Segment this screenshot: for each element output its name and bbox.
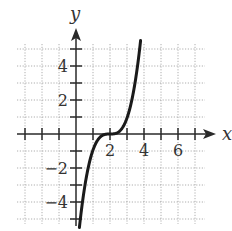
x-tick-label: 4 — [139, 141, 149, 160]
y-tick-label: 2 — [58, 91, 68, 110]
y-tick-label: 4 — [58, 57, 68, 76]
y-axis-label: y — [69, 3, 81, 24]
x-tick-label: 6 — [173, 141, 183, 160]
y-tick-label: −4 — [44, 193, 68, 212]
x-tick-label: 2 — [105, 141, 115, 160]
x-axis-label: x — [222, 123, 232, 144]
cubic-function-graph: x y 24642−2−4 — [0, 0, 232, 231]
y-tick-label: −2 — [44, 159, 68, 178]
